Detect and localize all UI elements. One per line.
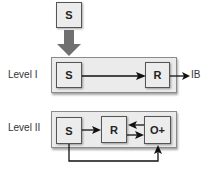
connector-arrows — [0, 0, 212, 169]
